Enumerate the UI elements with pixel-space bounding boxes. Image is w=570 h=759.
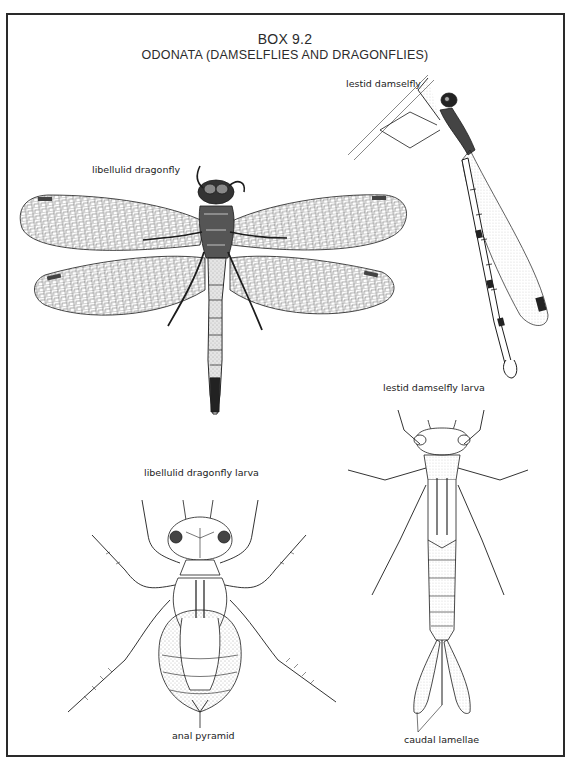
lestid-damselfly-larva-illustration bbox=[348, 410, 528, 732]
left-forewing bbox=[20, 195, 205, 250]
right-forewing bbox=[230, 195, 407, 250]
libellulid-dragonfly-illustration bbox=[20, 166, 406, 414]
pterostigma bbox=[38, 197, 52, 201]
right-hindwing bbox=[230, 256, 394, 314]
pterostigma bbox=[372, 196, 386, 200]
libellulid-dragonfly-larva-illustration bbox=[68, 500, 336, 728]
